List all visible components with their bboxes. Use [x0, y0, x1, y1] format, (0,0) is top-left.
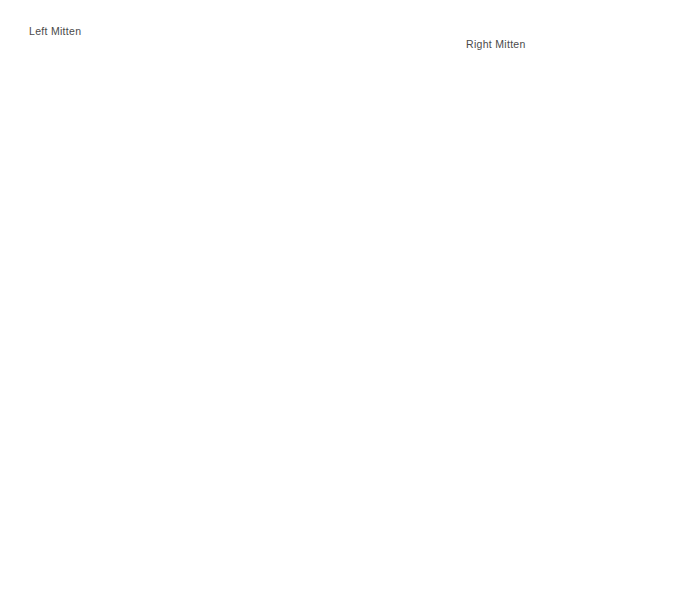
right-mitten-panel: Right Mitten [345, 0, 679, 611]
left-panel-title: Left Mitten [29, 25, 81, 37]
left-mitten-panel: Left Mitten [0, 0, 345, 611]
right-panel-title: Right Mitten [466, 38, 526, 50]
